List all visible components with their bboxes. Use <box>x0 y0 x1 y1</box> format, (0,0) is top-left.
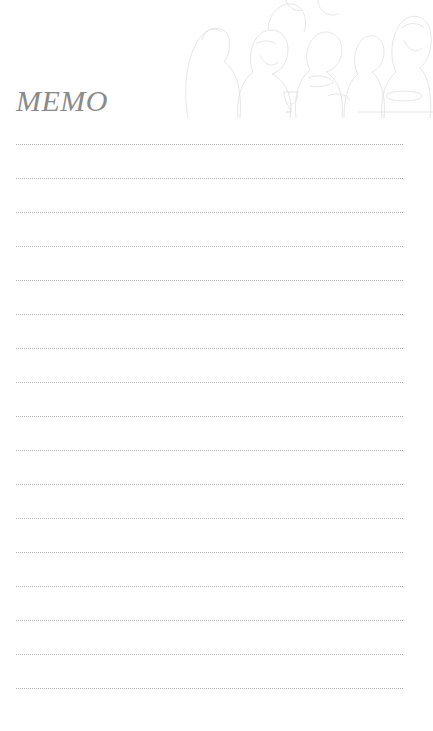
memo-line <box>16 382 403 383</box>
memo-line <box>16 314 403 315</box>
memo-writing-lines <box>16 0 403 731</box>
memo-line <box>16 178 403 179</box>
memo-line <box>16 654 403 655</box>
memo-line <box>16 484 403 485</box>
memo-line <box>16 144 403 145</box>
memo-line <box>16 586 403 587</box>
memo-line <box>16 416 403 417</box>
memo-line <box>16 688 403 689</box>
memo-line <box>16 246 403 247</box>
memo-line <box>16 620 403 621</box>
memo-line <box>16 450 403 451</box>
memo-line <box>16 348 403 349</box>
memo-line <box>16 280 403 281</box>
memo-line <box>16 518 403 519</box>
memo-line <box>16 212 403 213</box>
memo-line <box>16 552 403 553</box>
